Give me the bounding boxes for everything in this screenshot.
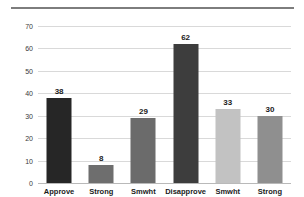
bar[interactable] [257, 116, 282, 183]
y-axis-tick-label: 10 [3, 157, 33, 164]
bar[interactable] [89, 165, 114, 183]
bars-group: 38829623330 [38, 26, 291, 183]
y-axis-tick-label: 0 [3, 180, 33, 187]
bar-value-label: 62 [181, 34, 190, 42]
bar[interactable] [173, 44, 198, 183]
y-axis-tick-label: 20 [3, 135, 33, 142]
bar-value-label: 33 [223, 99, 232, 107]
bar-chart: 010203040506070 38829623330 ApproveStron… [0, 16, 304, 197]
gridline: 0 [38, 183, 291, 184]
x-axis-category-label: Smwht [131, 187, 156, 196]
y-axis-tick-label: 40 [3, 90, 33, 97]
bar-slot: 29 [122, 26, 164, 183]
bar-value-label: 38 [55, 88, 64, 96]
y-axis-tick-label: 70 [3, 23, 33, 30]
bar[interactable] [131, 118, 156, 183]
x-axis-labels: ApproveStrongSmwhtDisapproveSmwhtStrong [38, 187, 291, 197]
bar-slot: 62 [165, 26, 207, 183]
y-axis-tick-label: 30 [3, 112, 33, 119]
x-axis-category-label: Disapprove [165, 187, 206, 196]
y-axis-tick-label: 60 [3, 45, 33, 52]
bar-slot: 33 [207, 26, 249, 183]
bar-value-label: 8 [99, 155, 103, 163]
bar[interactable] [47, 98, 72, 183]
x-axis-category-label: Smwht [215, 187, 240, 196]
bar-value-label: 29 [139, 108, 148, 116]
bar-slot: 38 [38, 26, 80, 183]
bar-slot: 30 [249, 26, 291, 183]
bar-value-label: 30 [265, 106, 274, 114]
y-axis-tick-label: 50 [3, 67, 33, 74]
x-axis-category-label: Strong [258, 187, 282, 196]
x-axis-category-label: Strong [89, 187, 113, 196]
plot-area: 010203040506070 38829623330 [38, 26, 291, 183]
bar[interactable] [215, 109, 240, 183]
bar-slot: 8 [80, 26, 122, 183]
chart-page: 010203040506070 38829623330 ApproveStron… [0, 0, 304, 197]
top-divider-rule [11, 7, 294, 9]
x-axis-category-label: Approve [44, 187, 74, 196]
